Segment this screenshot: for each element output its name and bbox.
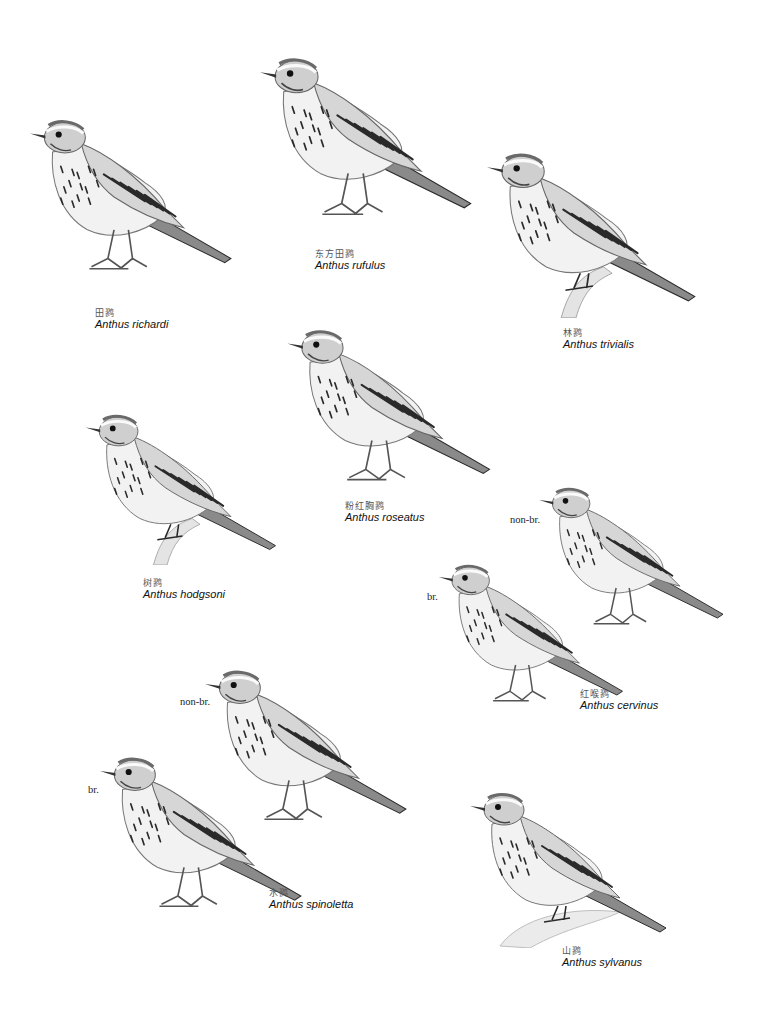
scientific-name: Anthus cervinus [580,699,658,712]
species-caption: 粉红胸鹨Anthus roseatus [345,501,425,524]
scientific-name: Anthus richardi [95,318,168,331]
chinese-name: 红喉鹨 [580,689,658,699]
plumage-label: br. [427,591,438,602]
scientific-name: Anthus hodgsoni [143,588,225,601]
chinese-name: 林鹨 [563,328,634,338]
chinese-name: 粉红胸鹨 [345,501,425,511]
scientific-name: Anthus roseatus [345,511,425,524]
plumage-label: br. [88,784,99,795]
species-caption: 山鹨Anthus sylvanus [562,946,642,969]
species-caption: 树鹨Anthus hodgsoni [143,578,225,601]
bird-illustration-sylvanus [460,788,680,948]
species-caption: 林鹨Anthus trivialis [563,328,634,351]
plumage-label: non-br. [180,696,210,707]
bird-illustration-trivialis [487,148,699,318]
species-caption: 红喉鹨Anthus cervinus [580,689,658,712]
bird-illustration-roseatus [287,325,494,490]
scientific-name: Anthus trivialis [563,338,634,351]
chinese-name: 东方田鹨 [315,249,385,259]
scientific-name: Anthus spinoletta [269,898,353,911]
bird-illustration-richardi [30,92,235,302]
plumage-label: non-br. [510,514,540,525]
bird-illustration-rufulus [260,44,475,234]
chinese-name: 水鹨 [269,888,353,898]
scientific-name: Anthus sylvanus [562,956,642,969]
bird-illustration-hodgsoni [85,410,280,565]
bird-illustration-cervinus-br [435,560,630,710]
chinese-name: 田鹨 [95,308,168,318]
chinese-name: 树鹨 [143,578,225,588]
scientific-name: Anthus rufulus [315,259,385,272]
illustration-plate: 田鹨Anthus richardi 东方田鹨Anthus rufulus 林鹨A… [0,0,782,1013]
species-caption: 水鹨Anthus spinoletta [269,888,353,911]
species-caption: 东方田鹨Anthus rufulus [315,249,385,272]
chinese-name: 山鹨 [562,946,642,956]
species-caption: 田鹨Anthus richardi [95,308,168,331]
